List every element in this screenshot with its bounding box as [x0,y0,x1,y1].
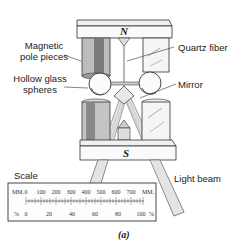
damping-weight [118,120,130,140]
scale-pct-0: 0 [25,211,28,217]
apparatus-drawing: N [0,0,239,245]
north-magnet-block: N [77,20,172,38]
left-glass-sphere [89,73,111,95]
left-lower-pole-piece [82,99,110,142]
scale-pct-20: 20 [46,211,52,217]
label-light-beam: Light beam [174,173,221,184]
scale-pct-100: 100 [137,211,146,217]
scale-mm-400: 400 [82,189,91,195]
scale-mm-100: 100 [37,189,46,195]
quartz-fiber [118,38,130,86]
label-hollow-line1: Hollow glass [12,73,68,84]
label-magnetic-pole-pieces: Magnetic pole pieces [18,40,70,62]
scale-pct-60: 60 [92,211,98,217]
figure-caption: (a) [118,229,130,240]
scale-pct-80: 80 [115,211,121,217]
scale-mm-unit-left: MM. [12,189,25,195]
label-magnetic-line1: Magnetic [18,40,70,51]
scale-mm-600: 600 [112,189,121,195]
scale-box: MM. 0 100 200 300 400 500 600 700 MM. % … [8,183,156,221]
scale-mm-500: 500 [97,189,106,195]
south-pole-letter: S [123,147,129,159]
scale-mm-200: 200 [52,189,61,195]
label-hollow-line2: spheres [12,84,68,95]
south-magnet-block: S [80,140,176,160]
label-magnetic-line2: pole pieces [18,51,70,62]
scale-pct-unit-left: % [14,211,19,217]
scale-mm-700: 700 [127,189,136,195]
torsion-bar [106,82,144,85]
label-hollow-glass-spheres: Hollow glass spheres [12,73,68,95]
north-pole-letter: N [119,25,129,37]
scale-pct-40: 40 [69,211,75,217]
left-upper-pole-piece [82,38,110,79]
scale-mm-unit-right: MM. [142,189,155,195]
right-lower-pole-piece [142,99,170,142]
label-mirror: Mirror [178,79,203,90]
scale-pct-unit-right: % [149,211,154,217]
label-scale: Scale [14,170,38,181]
label-quartz-fiber: Quartz fiber [178,42,228,53]
scale-mm-0: 0 [25,189,28,195]
scale-mm-300: 300 [67,189,76,195]
